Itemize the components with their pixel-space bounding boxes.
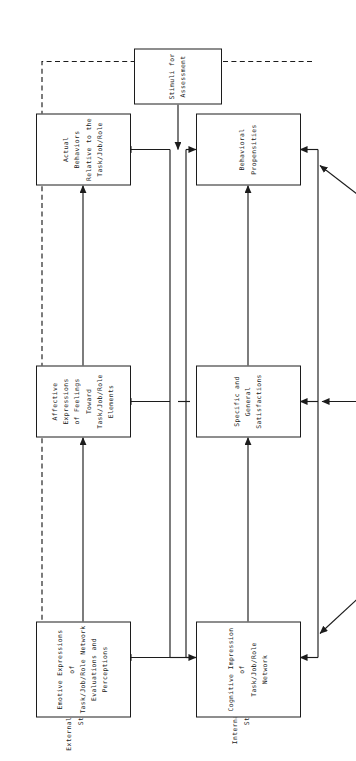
box-affective-expressions[interactable]: Affective Expressions of Feelings Toward… [36, 365, 131, 437]
box-actual-behaviors[interactable]: Actual Behaviors Relative to the Task/Jo… [36, 113, 131, 185]
diagram-canvas: External/Expressed States Internal/Stabl… [0, 0, 356, 761]
box-behavioral-propensities[interactable]: Behavioral Propensities [196, 113, 301, 185]
rotated-diagram-layer: External/Expressed States Internal/Stabl… [0, 0, 356, 761]
box-specific-general-satisfactions[interactable]: Specific and General Satisfactions [196, 365, 301, 437]
box-cognitive-impression[interactable]: Cognitive Impression of Task/Job/Role Ne… [196, 621, 301, 717]
box-emotive-expressions[interactable]: Emotive Expressions of Task/Job/Role Net… [36, 621, 131, 717]
box-stimuli-for-assessment[interactable]: Stimuli for Assessment [134, 48, 222, 104]
